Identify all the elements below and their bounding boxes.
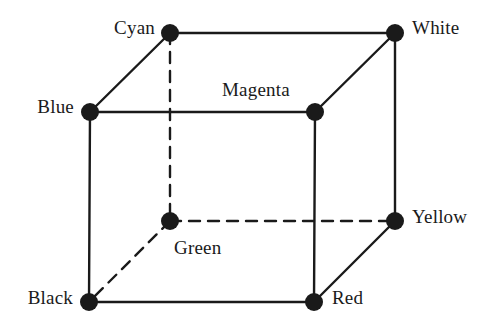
vertex-label-red: Red [332, 288, 363, 308]
cube-vertex-red [305, 293, 323, 311]
cube-vertex-cyan [161, 24, 179, 42]
vertex-layer [80, 24, 404, 311]
cube-edge-white-magenta [315, 33, 395, 112]
vertex-label-black: Black [0, 288, 73, 308]
vertex-label-magenta: Magenta [222, 80, 290, 100]
vertex-label-yellow: Yellow [412, 207, 467, 227]
rgb-color-cube-figure: CyanWhiteBlueMagentaGreenYellowBlackRed [0, 0, 500, 331]
vertex-label-cyan: Cyan [0, 18, 155, 38]
vertex-label-green: Green [174, 238, 221, 258]
cube-wireframe [0, 0, 500, 331]
cube-edge-cyan-blue [90, 33, 170, 112]
edge-layer [89, 33, 395, 302]
cube-vertex-green [161, 212, 179, 230]
cube-vertex-blue [81, 103, 99, 121]
cube-edge-green-black [89, 221, 170, 302]
cube-edge-magenta-red [314, 112, 315, 302]
cube-vertex-magenta [306, 103, 324, 121]
cube-vertex-yellow [386, 212, 404, 230]
vertex-label-blue: Blue [0, 97, 74, 117]
vertex-label-white: White [412, 18, 459, 38]
cube-vertex-black [80, 293, 98, 311]
cube-edge-blue-black [89, 112, 90, 302]
cube-vertex-white [386, 24, 404, 42]
